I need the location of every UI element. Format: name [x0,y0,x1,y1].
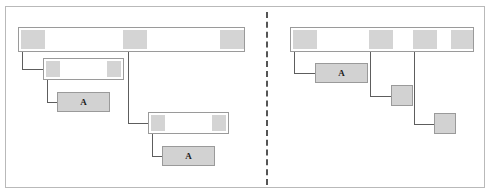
diagram-canvas: AAA [0,0,492,196]
right-leaf-a-1[interactable]: A [315,63,368,83]
right-panel: A [0,0,492,196]
right-root-bar-segment-2 [369,30,393,49]
conn-right-root-to-square2-horizontal [414,124,434,125]
right-leaf-a-1-label: A [316,64,367,82]
right-leaf-a-1-label-text: A [338,69,345,78]
right-leaf-square-2[interactable] [434,113,456,134]
right-root-bar[interactable] [290,27,474,52]
conn-right-root-to-square1-horizontal [370,96,391,97]
right-root-bar-segment-3 [413,30,437,49]
right-root-bar-segment-1 [293,30,317,49]
conn-right-root-to-leafa1-vertical [294,52,295,73]
conn-right-root-to-square1-vertical [370,52,371,96]
right-leaf-square-1[interactable] [391,85,413,106]
conn-right-root-to-leafa1-horizontal [294,73,315,74]
conn-right-root-to-square2-vertical [414,52,415,124]
right-root-bar-segment-4 [451,30,473,49]
